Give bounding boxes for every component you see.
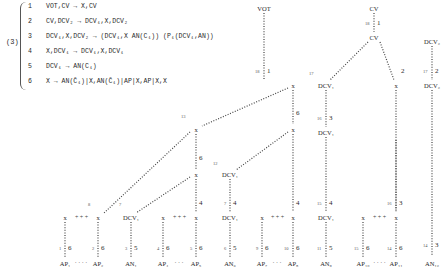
tree-node-dcv1_a: DCV₁ (318, 82, 334, 89)
line-number-label: 4 (157, 246, 159, 251)
tree-node-x_l2: x (96, 214, 99, 221)
sibling-connector: + + + (271, 214, 285, 220)
line-number-label: 9 (256, 246, 258, 251)
tree-node-an12: AN₁₂ (425, 260, 439, 267)
rule-applied-label: 4 (199, 199, 203, 207)
rule-applied-label: 4 (329, 199, 333, 207)
rule-applied-label: 3 (435, 241, 439, 249)
tree-node-x_l4: x (194, 214, 197, 221)
line-number-label: 2 (92, 246, 94, 251)
line-number-label: 14 (423, 243, 428, 248)
tree-node-ap2: AP₂ (93, 260, 104, 267)
tree-edge (330, 42, 368, 80)
line-number-label: 15 (317, 201, 322, 206)
sibling-connector: + + + (75, 214, 89, 220)
tree-node-vot: VOT (257, 5, 270, 12)
tree-edge (136, 177, 190, 213)
sibling-connector: · · · · (373, 260, 386, 266)
sibling-connector: + + + (373, 214, 387, 220)
tree-node-x_l7: x (361, 214, 364, 221)
tree-edge (202, 88, 288, 126)
tree-node-x_l1: x (63, 214, 66, 221)
rule-applied-label: 2 (401, 67, 405, 75)
tree-node-ap8: AP₈ (288, 260, 299, 267)
tree-node-cv_top: CV (369, 5, 378, 12)
line-number-label: 7 (119, 202, 121, 207)
tree-node-ap11: AP₁₁ (390, 260, 403, 267)
rule-applied-label: 6 (199, 154, 203, 162)
rule-applied-label: 5 (134, 244, 138, 252)
tree-node-an9: AN₉ (320, 260, 332, 267)
tree-node-ap4: AP₄ (158, 260, 169, 267)
tree-edge (380, 42, 394, 80)
tree-edges: + + ++ + ++ + ++ + +· · · ·· · ·· · ·· ·… (0, 0, 446, 271)
tree-node-dcv1_b: DCV₁ (318, 129, 334, 136)
tree-node-x_13: x (194, 126, 197, 133)
line-number-label: 1 (59, 246, 61, 251)
tree-node-x_l3: x (161, 214, 164, 221)
rule-applied-label: 6 (366, 244, 370, 252)
derivation-tree: + + ++ + ++ + ++ + +· · · ·· · ·· · ·· ·… (0, 0, 446, 271)
tree-node-dcv1_e: DCV₁ (222, 214, 238, 221)
rule-applied-label: 6 (265, 244, 269, 252)
tree-node-x_vot: x (291, 82, 294, 89)
line-number-label: 11 (317, 246, 321, 251)
tree-node-an6: AN₆ (224, 260, 236, 267)
tree-node-dcv1_c: DCV₁ (222, 171, 238, 178)
rule-applied-label: 2 (435, 67, 439, 75)
tree-node-x_6l: x (194, 171, 197, 178)
tree-node-cv_mid: CV (369, 34, 378, 41)
tree-node-ap10: AP₁₀ (357, 260, 370, 267)
tree-node-ap5: AP₅ (191, 260, 202, 267)
rule-applied-label: 5 (233, 244, 237, 252)
line-number-label: 3 (125, 246, 127, 251)
line-number-label: 6 (224, 246, 226, 251)
tree-node-x_l6: x (291, 214, 294, 221)
tree-edge (104, 132, 190, 213)
tree-node-dcv2_top: DCV₂ (424, 38, 440, 45)
tree-node-ap1: AP₁ (60, 260, 71, 267)
tree-edge (236, 132, 288, 170)
line-number-label: 17 (309, 71, 314, 76)
tree-node-x_cv: x (394, 82, 397, 89)
rule-applied-label: 5 (329, 244, 333, 252)
rule-applied-label: 6 (68, 244, 72, 252)
rule-applied-label: 1 (377, 19, 381, 27)
rule-applied-label: 1 (267, 67, 271, 75)
tree-node-dcv2_bot: DCV₂ (424, 82, 440, 89)
rule-applied-label: 4 (233, 199, 237, 207)
tree-node-x_6r: x (291, 126, 294, 133)
line-number-label: 8 (88, 202, 90, 207)
rule-applied-label: 6 (166, 244, 170, 252)
line-number-label: 16 (317, 116, 322, 121)
rule-applied-label: 6 (296, 109, 300, 117)
line-number-label: 15 (354, 246, 359, 251)
sibling-connector: + + + (173, 214, 187, 220)
sibling-connector: · · · (273, 260, 282, 266)
rule-applied-label: 6 (296, 244, 300, 252)
line-number-label: 7 (224, 201, 226, 206)
rule-applied-label: 3 (399, 199, 403, 207)
tree-node-dcv1_d: DCV₁ (123, 214, 139, 221)
line-number-label: 18 (255, 69, 260, 74)
line-number-label: 16 (387, 201, 392, 206)
tree-node-x_l8: x (394, 214, 397, 221)
tree-node-ap7: AP₇ (257, 260, 268, 267)
rule-applied-label: 6 (399, 244, 403, 252)
tree-node-dcv1_f: DCV₁ (318, 214, 334, 221)
line-number-label: 18 (365, 21, 370, 26)
tree-node-x_l5: x (260, 214, 263, 221)
rule-applied-label: 4 (296, 199, 300, 207)
line-number-label: 14 (387, 246, 392, 251)
line-number-label: 17 (423, 69, 428, 74)
rule-applied-label: 3 (329, 114, 333, 122)
rule-applied-label: 6 (101, 244, 105, 252)
rule-applied-label: 6 (199, 244, 203, 252)
tree-node-an1: AN₁ (125, 260, 137, 267)
line-number-label: 10 (284, 246, 289, 251)
line-number-label: 12 (213, 161, 218, 166)
line-number-label: 13 (181, 114, 186, 119)
sibling-connector: · · · · (75, 260, 88, 266)
sibling-connector: · · · (175, 260, 184, 266)
line-number-label: 5 (190, 246, 192, 251)
